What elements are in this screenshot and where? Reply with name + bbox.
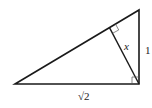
vertical-leg-label: 1 — [145, 44, 151, 56]
altitude-label: x — [123, 40, 129, 52]
horizontal-leg-label: √2 — [78, 90, 90, 102]
triangle-diagram: x 1 √2 — [0, 0, 152, 108]
altitude-line — [110, 28, 140, 84]
